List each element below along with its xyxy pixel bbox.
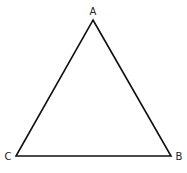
triangle-diagram: A B C — [0, 0, 187, 173]
triangle-abc — [16, 20, 171, 156]
vertex-label-c: C — [5, 151, 12, 162]
vertex-label-a: A — [90, 6, 97, 17]
vertex-label-b: B — [176, 151, 183, 162]
